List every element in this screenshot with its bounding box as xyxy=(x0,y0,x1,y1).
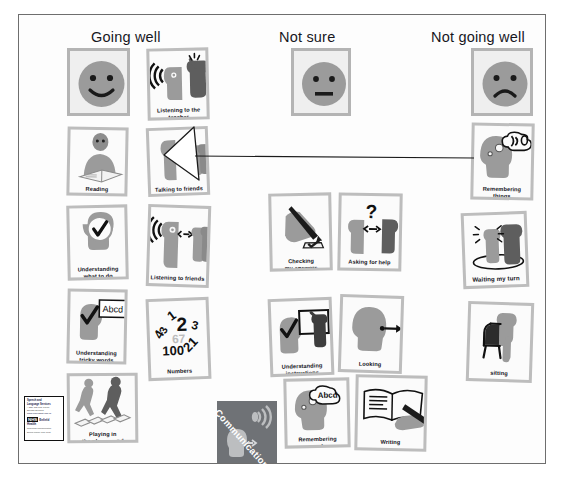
svg-text:3: 3 xyxy=(190,318,200,333)
understanding-what-to-do-icon xyxy=(69,207,125,266)
understanding-instructions-icon xyxy=(271,300,331,364)
numbers-icon: 1 2 3 4 3 67 100 21 xyxy=(149,300,208,369)
card-label: Writing xyxy=(357,438,423,448)
card-reading[interactable]: Reading xyxy=(66,126,128,196)
card-happy-face[interactable] xyxy=(67,48,130,116)
column-heading-not-sure: Not sure xyxy=(279,29,335,45)
card-writing[interactable]: Writing xyxy=(354,374,427,451)
listening-to-friends-icon xyxy=(149,207,208,276)
card-checking-my-answers[interactable]: Checking my answers xyxy=(268,192,333,271)
card-label: Understanding instructions xyxy=(273,362,332,377)
word-bubble-text: Abcd xyxy=(102,304,123,314)
card-understanding-tricky-words[interactable]: Abcd Understanding tricky words xyxy=(66,288,127,364)
waiting-my-turn-icon xyxy=(464,214,526,277)
card-understanding-instructions[interactable]: Understanding instructions xyxy=(268,297,335,377)
column-heading-going-well: Going well xyxy=(91,29,161,45)
card-label: Listening to the teacher xyxy=(150,106,206,120)
nhs-sub: Health xyxy=(27,422,61,426)
card-listening-to-friends[interactable]: Listening to friends xyxy=(146,204,212,288)
understanding-tricky-words-icon: Abcd xyxy=(70,291,125,350)
sad-face-icon xyxy=(474,51,530,116)
nhs-trust: Enfield xyxy=(39,418,49,422)
card-label: Reading xyxy=(69,185,124,195)
card-label: Asking for help xyxy=(340,258,398,268)
card-playing-in-the-playground[interactable]: Playing in the playground xyxy=(67,373,139,444)
card-label: Checking my answers xyxy=(273,257,330,271)
service-logo: Speech and Language Services A Stay and … xyxy=(24,396,64,441)
card-label: Understanding what to do xyxy=(70,265,125,280)
question-mark: ? xyxy=(365,201,377,222)
card-label: Listening to friends xyxy=(149,274,206,285)
asking-for-help-icon: ? xyxy=(340,195,399,259)
card-label: Remembering words xyxy=(287,435,347,448)
card-understanding-what-to-do[interactable]: Understanding what to do xyxy=(66,204,129,280)
sorting-board: Going well Not sure Not going well xyxy=(18,14,546,464)
card-label: Looking xyxy=(341,360,399,371)
looking-icon xyxy=(341,297,401,362)
checking-my-answers-icon xyxy=(271,195,329,258)
card-numbers[interactable]: 1 2 3 4 3 67 100 21 Numbers xyxy=(146,297,212,381)
writing-icon xyxy=(358,377,425,439)
card-label: Playing in the playground xyxy=(70,431,135,444)
card-label: Remembering things xyxy=(473,185,530,200)
speech-sound-icon xyxy=(217,401,277,463)
thought-bubble-text: Abcd xyxy=(318,391,338,400)
playing-in-playground-icon xyxy=(70,376,136,432)
reading-icon xyxy=(70,129,126,186)
sitting-icon xyxy=(469,304,531,371)
remembering-things-icon xyxy=(474,125,532,186)
card-looking[interactable]: Looking xyxy=(338,294,404,374)
card-neutral-face[interactable] xyxy=(291,48,351,116)
happy-face-icon xyxy=(70,51,127,116)
communication-tile[interactable]: Communication xyxy=(217,401,277,463)
card-remembering-things[interactable]: Remembering things xyxy=(470,122,534,200)
card-remembering-words[interactable]: Abcd Remembering words xyxy=(283,377,350,448)
card-label: Understanding tricky words xyxy=(69,349,123,364)
logo-footer-2: Enfield Primary Care Trust xyxy=(27,431,61,434)
logo-footer-1: Supporting Communication xyxy=(27,427,61,430)
card-waiting-my-turn[interactable]: Waiting my turn xyxy=(461,211,530,289)
logo-url: www.enfieldsalt.nhs.uk xyxy=(27,412,61,415)
card-asking-for-help[interactable]: ? Asking for help xyxy=(337,192,402,271)
remembering-words-icon: Abcd xyxy=(286,380,347,436)
listening-to-teacher-icon xyxy=(149,50,206,107)
card-talking-to-friends[interactable]: Talking to friends xyxy=(146,126,210,197)
card-listening-to-the-teacher[interactable]: Listening to the teacher xyxy=(146,47,209,120)
card-sitting[interactable]: sitting xyxy=(466,301,534,383)
talking-to-friends-icon xyxy=(149,129,207,187)
neutral-face-icon xyxy=(294,51,348,116)
card-sad-face[interactable] xyxy=(471,48,533,116)
column-heading-not-going-well: Not going well xyxy=(431,29,525,45)
